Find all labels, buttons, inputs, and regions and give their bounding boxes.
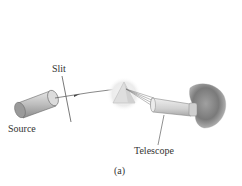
figure-caption: (a)	[114, 166, 125, 176]
slit	[62, 76, 71, 122]
telescope	[151, 98, 198, 116]
spectroscope-diagram	[0, 0, 242, 186]
telescope-label: Telescope	[134, 146, 174, 156]
slit-label: Slit	[52, 64, 66, 74]
light-source	[13, 89, 61, 119]
source-label: Source	[8, 124, 36, 134]
telescope-leader	[158, 115, 164, 145]
prism	[107, 77, 141, 111]
